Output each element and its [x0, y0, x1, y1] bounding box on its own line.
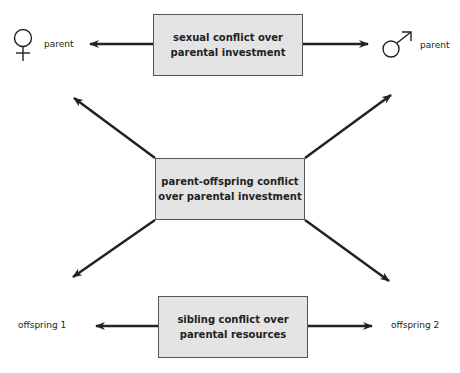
box-text-line: sibling conflict over — [177, 314, 288, 325]
offspring-1-label: offspring 1 — [18, 320, 66, 330]
offspring-2-label: offspring 2 — [391, 320, 439, 330]
arrow-mid-top-right — [305, 95, 391, 158]
box-text-line: sexual conflict over — [173, 32, 283, 43]
box-text-line: over parental investment — [158, 191, 301, 202]
box-text-line: parent-offspring conflict — [161, 176, 298, 187]
arrow-mid-bottom-left — [73, 220, 155, 277]
male-parent-label: parent — [420, 40, 450, 50]
arrow-mid-bottom-right — [305, 220, 389, 281]
sexual-conflict-box: sexual conflict overparental investment — [153, 14, 303, 76]
female-symbol-icon — [10, 28, 36, 62]
arrow-mid-top-left — [74, 98, 155, 158]
male-symbol-icon — [381, 30, 415, 60]
female-parent-label: parent — [44, 39, 74, 49]
sibling-conflict-box: sibling conflict overparental resources — [158, 296, 308, 358]
box-text-line: parental resources — [180, 329, 286, 340]
box-text-line: parental investment — [171, 47, 286, 58]
parent-offspring-conflict-box: parent-offspring conflictover parental i… — [155, 158, 305, 220]
